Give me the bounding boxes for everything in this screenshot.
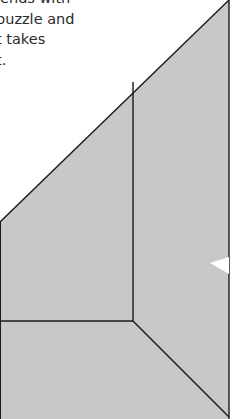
tangram-puzzle-diagram [0, 0, 233, 419]
